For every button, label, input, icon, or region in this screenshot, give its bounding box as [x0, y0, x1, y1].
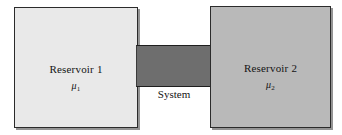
reservoir-2-box: Reservoir 2 μ2: [210, 6, 331, 128]
reservoir-2-potential-subscript: 2: [271, 84, 275, 92]
reservoir-1-box: Reservoir 1 μ1: [14, 7, 138, 128]
reservoir-1-label: Reservoir 1: [15, 63, 137, 76]
reservoir-1-potential-subscript: 1: [77, 85, 81, 93]
system-label: System: [136, 88, 212, 101]
reservoir-1-potential: μ1: [15, 79, 137, 94]
reservoir-2-label: Reservoir 2: [211, 62, 330, 75]
system-channel: [136, 45, 212, 87]
reservoir-2-potential: μ2: [211, 78, 330, 93]
reservoir-system-diagram: Reservoir 1 μ1 System Reservoir 2 μ2: [0, 0, 342, 135]
reservoir-1-potential-symbol: μ: [72, 80, 77, 91]
